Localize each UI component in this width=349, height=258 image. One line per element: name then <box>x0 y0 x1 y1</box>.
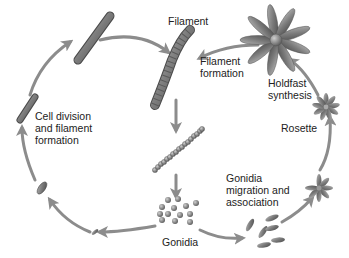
label-filament-formation: Filament formation <box>200 55 244 79</box>
arrow-short-cell-to-elongating <box>22 128 35 180</box>
small-rosette-icon <box>305 174 333 202</box>
gonidia-cluster-icon <box>157 196 199 225</box>
label-cell-division: Cell division and filament formation <box>35 110 92 146</box>
filament-icon <box>155 30 190 105</box>
arrow-small-rosette-to-rosette <box>320 118 330 170</box>
label-holdfast-synthesis: Holdfast synthesis <box>268 77 312 101</box>
single-cell-icon <box>91 228 99 236</box>
arrow-gonidia-to-migration <box>200 230 242 238</box>
label-gonidia-migration: Gonidia migration and association <box>226 172 290 208</box>
arrow-gonidia-to-single-cell <box>100 226 155 232</box>
label-gonidia: Gonidia <box>162 236 198 248</box>
chain-of-cells-icon <box>152 126 204 172</box>
short-cell-icon <box>35 180 48 195</box>
scattered-gonidia-icon <box>244 213 285 249</box>
arrow-short-filament-to-filament <box>100 37 168 52</box>
rosette-icon <box>312 93 340 121</box>
elongating-cell-icon <box>20 97 35 120</box>
label-rosette: Rosette <box>281 122 317 134</box>
large-rosette-holdfast-icon <box>240 4 311 76</box>
label-filament: Filament <box>168 15 208 27</box>
arrow-single-cell-to-short-cell <box>50 200 90 232</box>
arrow-elongating-to-short-filament <box>30 42 70 95</box>
